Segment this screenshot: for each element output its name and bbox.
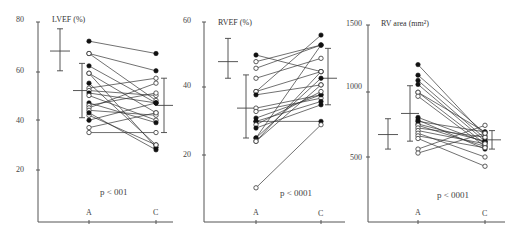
data-point-a <box>254 59 258 63</box>
y-tick-label: 80 <box>16 15 24 24</box>
category-label-c: C <box>153 208 158 217</box>
paired-line <box>89 103 156 120</box>
data-point-c <box>319 123 323 127</box>
y-tick-label: 60 <box>16 66 24 75</box>
data-point-c <box>483 146 487 150</box>
p-value-annotation: p < 0001 <box>437 190 469 200</box>
p-value-annotation: p < 001 <box>100 187 128 197</box>
data-point-c <box>154 69 158 73</box>
data-point-a <box>416 82 420 86</box>
data-point-c <box>154 120 158 124</box>
panel-title: RVEF (%) <box>218 18 252 27</box>
data-point-c <box>319 69 323 73</box>
panel-rv-area: 1500 1000 500 RV area (mm²) A C p < 0001 <box>346 19 505 224</box>
paired-line <box>256 125 321 188</box>
data-point-a <box>87 64 91 68</box>
data-point-a <box>87 71 91 75</box>
data-point-c <box>319 76 323 80</box>
paired-line <box>89 113 156 128</box>
data-point-a <box>254 109 258 113</box>
data-point-c <box>319 33 323 37</box>
paired-line <box>89 113 156 150</box>
data-point-c <box>319 56 323 60</box>
paired-line <box>418 125 485 149</box>
data-point-c <box>319 89 323 93</box>
data-point-c <box>154 51 158 55</box>
data-point-a <box>87 93 91 97</box>
y-tick-label: 1500 <box>346 19 362 28</box>
data-point-a <box>87 130 91 134</box>
data-point-c <box>483 131 487 135</box>
panel-title: LVEF (%) <box>52 15 86 24</box>
data-point-a <box>87 118 91 122</box>
paired-line <box>256 58 321 78</box>
data-point-a <box>416 94 420 98</box>
data-point-a <box>87 111 91 115</box>
panel-title: RV area (mm²) <box>381 19 429 28</box>
data-point-a <box>87 39 91 43</box>
panel-data <box>218 33 337 190</box>
data-point-a <box>416 73 420 77</box>
data-point-a <box>416 151 420 155</box>
data-point-c <box>154 143 158 147</box>
data-point-a <box>416 62 420 66</box>
panel-rvef: 60 40 20 RVEF (%) A C p < 0001 <box>183 16 345 224</box>
paired-line <box>256 45 321 68</box>
y-tick-label: 20 <box>16 165 24 174</box>
category-label-a: A <box>415 208 421 217</box>
p-value-annotation: p < 0001 <box>280 188 312 198</box>
data-point-c <box>154 81 158 85</box>
chart-canvas: 80 60 40 20 LVEF (%) A C p < 001 60 40 2… <box>0 0 511 234</box>
data-point-c <box>154 76 158 80</box>
data-point-a <box>254 53 258 57</box>
data-point-c <box>483 123 487 127</box>
paired-line <box>418 92 485 132</box>
paired-line <box>89 83 156 145</box>
data-point-a <box>87 81 91 85</box>
category-label-a: A <box>253 208 259 217</box>
data-point-c <box>483 164 487 168</box>
y-tick-label: 20 <box>183 150 191 159</box>
paired-line <box>418 139 485 167</box>
paired-line <box>89 54 156 71</box>
data-point-a <box>254 139 258 143</box>
data-point-c <box>154 148 158 152</box>
data-point-a <box>416 136 420 140</box>
data-point-a <box>87 125 91 129</box>
category-label-a: A <box>86 208 92 217</box>
category-label-c: C <box>482 209 487 218</box>
data-point-c <box>319 43 323 47</box>
paired-line <box>89 41 156 53</box>
y-tick-label: 40 <box>183 81 191 90</box>
y-tick-label: 1000 <box>346 82 362 91</box>
data-point-a <box>87 51 91 55</box>
data-point-c <box>319 103 323 107</box>
data-point-c <box>154 91 158 95</box>
data-point-a <box>254 93 258 97</box>
data-point-a <box>254 66 258 70</box>
category-label-c: C <box>318 209 323 218</box>
data-point-c <box>483 155 487 159</box>
data-point-a <box>254 76 258 80</box>
y-tick-label: 60 <box>183 16 191 25</box>
panel-data <box>50 29 173 152</box>
y-tick-label: 500 <box>350 153 362 162</box>
data-point-a <box>254 186 258 190</box>
data-point-c <box>319 83 323 87</box>
figure: 80 60 40 20 LVEF (%) A C p < 001 60 40 2… <box>0 0 511 234</box>
data-point-c <box>154 101 158 105</box>
paired-line <box>89 110 156 115</box>
y-tick-label: 40 <box>16 116 24 125</box>
paired-line <box>256 35 321 91</box>
data-point-c <box>154 130 158 134</box>
panel-data <box>378 62 501 168</box>
data-point-c <box>154 111 158 115</box>
panel-lvef: 80 60 40 20 LVEF (%) A C p < 001 <box>16 15 173 224</box>
paired-line <box>418 133 485 157</box>
data-point-a <box>254 126 258 130</box>
